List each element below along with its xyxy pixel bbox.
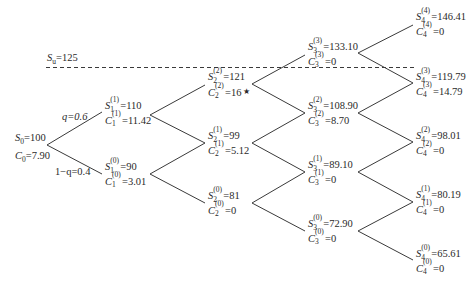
subscript: 3 [315, 61, 319, 69]
value: =0 [325, 174, 336, 185]
value: =0 [433, 145, 444, 156]
superscript: (3) [313, 37, 322, 45]
value: =146.41 [431, 11, 466, 22]
value: =11.42 [122, 115, 151, 126]
value: =133.10 [323, 41, 358, 52]
value: =0 [433, 204, 444, 215]
index: (1)2 [215, 144, 225, 158]
superscript: (3) [421, 67, 430, 75]
index: (2)3 [315, 114, 325, 128]
node-3-0: S(0)3=72.90C(0)3=0 [308, 217, 353, 246]
option-value: C(2)2=16★ [208, 85, 250, 101]
star-icon: ★ [243, 87, 250, 96]
c-symbol: C [416, 145, 423, 156]
subscript: 3 [315, 238, 319, 246]
superscript: (4) [423, 21, 432, 29]
option-value: C(2)4=0 [416, 144, 461, 159]
value: =110 [120, 100, 141, 111]
value: =0 [325, 233, 336, 244]
option-value: C(0)1=3.01 [105, 175, 146, 190]
node-4-0: S(0)4=65.61C(0)4=0 [416, 247, 461, 276]
c-symbol: C [308, 115, 315, 126]
node-1-1: S(1)1=110C(1)1=11.42 [105, 99, 151, 128]
subscript: 4 [423, 31, 427, 39]
superscript: (0) [112, 171, 121, 179]
c-symbol: C [416, 26, 423, 37]
node-2-1: S(1)2=99C(1)2=5.12 [208, 129, 249, 158]
superscript: (0) [313, 214, 322, 222]
root-node: S0=100 C0=7.90 [15, 131, 50, 167]
superscript: (1) [421, 185, 430, 193]
option-value: C(2)3=8.70 [308, 114, 358, 129]
superscript: (0) [421, 244, 430, 252]
superscript: (3) [315, 51, 324, 59]
c-symbol: C [208, 145, 215, 156]
node-4-3: S(3)4=119.79C(3)4=14.79 [416, 70, 466, 99]
c-symbol: C [105, 176, 112, 187]
superscript: (4) [421, 7, 430, 15]
value: =0 [433, 263, 444, 274]
option-value: C(0)2=0 [208, 204, 240, 219]
index: (0)4 [423, 262, 433, 276]
superscript: (3) [423, 81, 432, 89]
superscript: (2) [213, 67, 222, 75]
index: (1)4 [423, 203, 433, 217]
superscript: (1) [112, 110, 121, 118]
value: =3.01 [122, 176, 146, 187]
index: (4)4 [423, 25, 433, 39]
superscript: (2) [421, 126, 430, 134]
binomial-tree-diagram: Su=125 q=0.6 1−q=0.4 S0=100 C0=7.90 S(1)… [0, 0, 472, 284]
subscript: 3 [315, 179, 319, 187]
index: (3)3 [315, 55, 325, 69]
index: (1)1 [112, 114, 122, 128]
superscript: (0) [315, 228, 324, 236]
subscript: 1 [112, 181, 116, 189]
subscript: 4 [423, 150, 427, 158]
superscript: (1) [423, 199, 432, 207]
index: (3)4 [423, 85, 433, 99]
c-symbol: C [308, 56, 315, 67]
barrier-value: =125 [56, 52, 78, 63]
superscript: (2) [315, 110, 324, 118]
superscript: (1) [315, 169, 324, 177]
node-3-2: S(2)3=108.90C(2)3=8.70 [308, 99, 358, 128]
c-symbol: C [416, 263, 423, 274]
c-symbol: C [105, 115, 112, 126]
c-symbol: C [208, 87, 215, 98]
c-symbol: C [208, 205, 215, 216]
value: =121 [223, 71, 245, 82]
subscript: 4 [423, 91, 427, 99]
node-3-1: S(1)3=89.10C(1)3=0 [308, 158, 353, 187]
option-value: C(0)3=0 [308, 232, 353, 247]
value: =0 [433, 26, 444, 37]
value: =90 [120, 161, 136, 172]
value: =0 [225, 205, 236, 216]
value: =98.01 [431, 130, 461, 141]
value: =7.90 [26, 150, 50, 161]
index: (1)3 [315, 173, 325, 187]
value: =119.79 [431, 71, 465, 82]
barrier-label: Su=125 [47, 52, 78, 68]
c-symbol: C [15, 150, 22, 161]
superscript: (1) [313, 155, 322, 163]
superscript: (1) [110, 96, 119, 104]
c-symbol: C [416, 204, 423, 215]
subscript: 3 [315, 120, 319, 128]
node-2-0: S(0)2=81C(0)2=0 [208, 189, 240, 218]
subscript: 1 [112, 120, 116, 128]
subscript: 4 [423, 268, 427, 276]
value: =65.61 [431, 248, 461, 259]
root-option-value: C0=7.90 [15, 149, 50, 167]
superscript: (1) [215, 140, 224, 148]
option-value: C(4)4=0 [416, 25, 466, 40]
superscript: (2) [313, 96, 322, 104]
subscript: 4 [423, 209, 427, 217]
root-stock-price: S0=100 [15, 131, 50, 149]
c-symbol: C [308, 233, 315, 244]
index: (2)2 [215, 86, 225, 100]
node-4-1: S(1)4=80.19C(1)4=0 [416, 188, 461, 217]
down-probability-label: 1−q=0.4 [55, 166, 90, 178]
node-3-3: S(3)3=133.10C(3)3=0 [308, 40, 358, 69]
option-value: C(1)3=0 [308, 173, 353, 188]
node-2-2: S(2)2=121C(2)2=16★ [208, 70, 250, 100]
